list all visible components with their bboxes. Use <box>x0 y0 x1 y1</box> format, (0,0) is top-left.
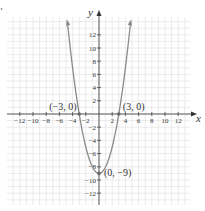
corner-dot <box>1 8 3 10</box>
point-label: (0, −9) <box>104 167 131 179</box>
x-axis-label: x <box>195 112 201 124</box>
y-tick-label: 12 <box>89 31 97 39</box>
x-tick-label: −12 <box>14 117 25 125</box>
x-tick-label: 6 <box>137 117 141 125</box>
curve-arrow-icon <box>128 19 134 26</box>
y-tick-label: 2 <box>93 97 97 105</box>
y-tick-label: −6 <box>89 150 97 158</box>
point-marker <box>77 112 81 116</box>
x-tick-label: 4 <box>124 117 128 125</box>
point-label: (3, 0) <box>123 101 145 113</box>
x-tick-label: −4 <box>69 117 77 125</box>
grid <box>7 17 190 205</box>
x-tick-label: 12 <box>175 117 183 125</box>
parabola-graph: −12−10−8−6−4−22468101212108642−2−4−6−8−1… <box>0 0 205 211</box>
y-tick-label: 8 <box>93 58 97 66</box>
x-tick-label: 2 <box>110 117 114 125</box>
point-marker <box>117 112 121 116</box>
y-axis-label: y <box>87 6 93 18</box>
y-tick-label: 4 <box>93 84 97 92</box>
y-tick-label: −10 <box>85 177 96 185</box>
x-tick-label: 10 <box>162 117 170 125</box>
annotated-points: (−3, 0)(3, 0)(0, −9) <box>49 19 144 179</box>
y-tick-label: −12 <box>85 190 96 198</box>
x-tick-label: −6 <box>56 117 64 125</box>
point-marker <box>97 172 101 176</box>
y-tick-label: −4 <box>89 137 97 145</box>
curve-arrow-icon <box>65 19 71 26</box>
y-axis-arrow-icon <box>97 10 102 16</box>
point-label: (−3, 0) <box>49 101 76 113</box>
y-tick-label: 10 <box>89 45 97 53</box>
x-tick-label: 8 <box>150 117 154 125</box>
y-tick-label: 6 <box>93 71 97 79</box>
y-tick-label: −2 <box>89 124 97 132</box>
x-tick-label: −8 <box>42 117 50 125</box>
x-tick-label: −10 <box>28 117 39 125</box>
